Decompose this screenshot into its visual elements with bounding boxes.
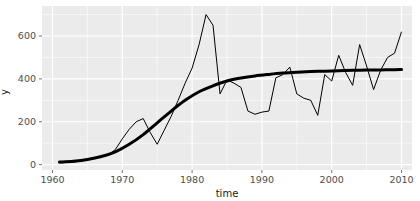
y-tick-label: 400 — [18, 73, 36, 84]
x-tick-label: 2000 — [320, 174, 344, 185]
x-tick-label: 1970 — [110, 174, 134, 185]
x-axis-title: time — [216, 188, 239, 199]
x-tick-label: 2010 — [389, 174, 413, 185]
x-tick-label: 1990 — [250, 174, 274, 185]
ggplot-chart: 196019701980199020002010 0200400600 time… — [0, 0, 420, 201]
x-tick-label: 1980 — [180, 174, 204, 185]
y-tick-label: 200 — [18, 116, 36, 127]
y-axis-title: y — [0, 89, 10, 95]
x-tick-label: 1960 — [40, 174, 64, 185]
screenshot-root: 196019701980199020002010 0200400600 time… — [0, 0, 420, 201]
y-tick-label: 600 — [18, 30, 36, 41]
y-tick-label: 0 — [30, 159, 36, 170]
